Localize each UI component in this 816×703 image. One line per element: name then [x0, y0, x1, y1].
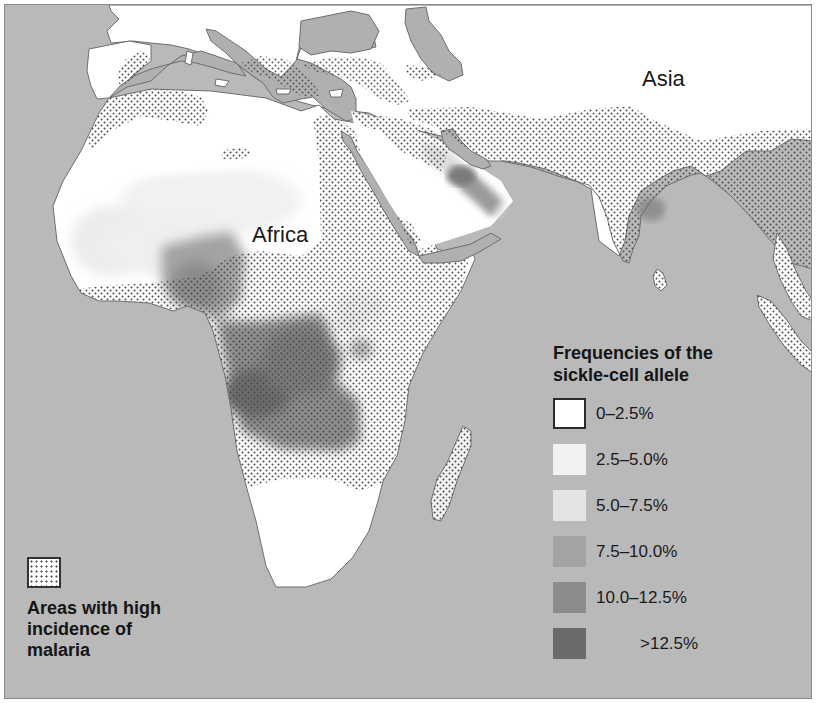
map-frame: Africa Asia Frequencies of the sickle-ce… — [4, 4, 812, 699]
legend-title: Frequencies of the sickle-cell allele — [553, 342, 773, 386]
africa-label: Africa — [252, 222, 308, 248]
legend-label: >12.5% — [640, 634, 698, 654]
swatch-over-12.5 — [553, 628, 586, 659]
legend-label: 7.5–10.0% — [596, 542, 677, 562]
legend-item: 2.5–5.0% — [553, 444, 773, 475]
legend-item: >12.5% — [553, 628, 773, 659]
swatch-0-2.5 — [553, 398, 586, 429]
island-crete — [276, 89, 291, 94]
island-cyprus — [329, 89, 343, 97]
swatch-7.5-10.0 — [553, 536, 586, 567]
malaria-legend-line-1: Areas with high — [27, 598, 227, 619]
malaria-legend: Areas with high incidence of malaria — [27, 557, 227, 661]
frequency-legend: Frequencies of the sickle-cell allele 0–… — [553, 342, 773, 674]
legend-label: 0–2.5% — [596, 404, 654, 424]
legend-label: 5.0–7.5% — [596, 496, 668, 516]
legend-title-line-2: sickle-cell allele — [553, 364, 773, 386]
asia-label: Asia — [642, 66, 685, 92]
legend-label: 2.5–5.0% — [596, 450, 668, 470]
legend-label: 10.0–12.5% — [596, 588, 687, 608]
swatch-5.0-7.5 — [553, 490, 586, 521]
island-sardinia — [185, 51, 193, 65]
legend-item: 0–2.5% — [553, 398, 773, 429]
legend-title-line-1: Frequencies of the — [553, 342, 773, 364]
legend-item: 5.0–7.5% — [553, 490, 773, 521]
legend-item: 10.0–12.5% — [553, 582, 773, 613]
swatch-10.0-12.5 — [553, 582, 586, 613]
stipple-pattern-icon — [27, 557, 61, 588]
malaria-legend-text: Areas with high incidence of malaria — [27, 598, 227, 661]
malaria-legend-line-2: incidence of — [27, 619, 227, 640]
malaria-legend-line-3: malaria — [27, 640, 227, 661]
legend-item: 7.5–10.0% — [553, 536, 773, 567]
swatch-2.5-5.0 — [553, 444, 586, 475]
